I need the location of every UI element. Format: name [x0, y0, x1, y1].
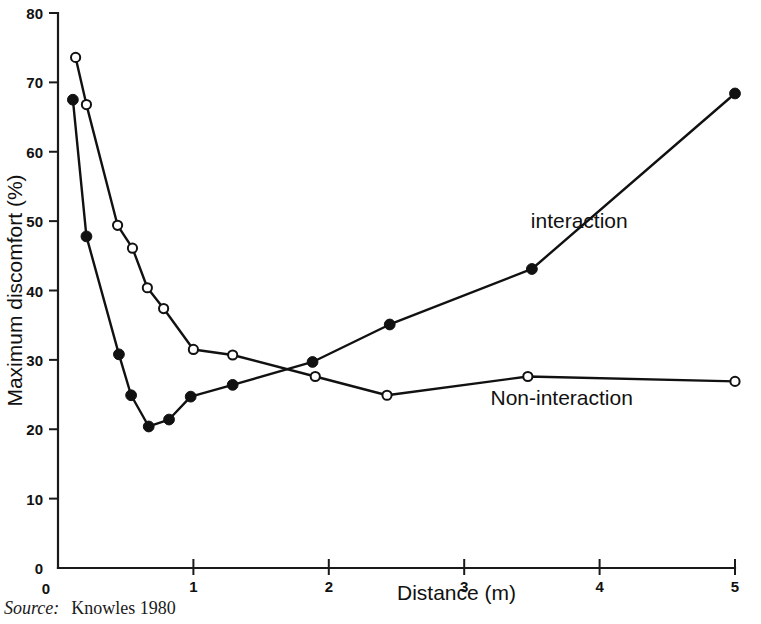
- y-tick-label: 70: [26, 74, 43, 91]
- x-tick-label: 4: [595, 578, 604, 595]
- chart-labels: Distance (m)Maximum discomfort (%)intera…: [3, 174, 633, 604]
- data-point-non-interaction-2: [113, 221, 122, 230]
- data-point-interaction-1: [81, 231, 92, 242]
- data-point-non-interaction-0: [71, 53, 80, 62]
- y-tick-label: 20: [26, 421, 43, 438]
- y-tick-label: 0: [35, 560, 43, 577]
- data-point-interaction-5: [164, 414, 175, 425]
- chart-series: [67, 53, 740, 432]
- data-point-interaction-4: [143, 421, 154, 432]
- source-reference-label: Knowles 1980: [71, 598, 176, 618]
- series-line-interaction: [73, 93, 735, 426]
- data-point-interaction-10: [527, 264, 538, 275]
- data-point-non-interaction-1: [82, 100, 91, 109]
- data-point-non-interaction-10: [523, 372, 532, 381]
- data-point-interaction-3: [126, 390, 137, 401]
- series-annotation-0: interaction: [531, 209, 628, 232]
- y-tick-label: 50: [26, 213, 43, 230]
- data-point-interaction-11: [730, 88, 741, 99]
- data-point-non-interaction-9: [382, 391, 391, 400]
- data-point-non-interaction-3: [128, 244, 137, 253]
- data-point-interaction-9: [384, 319, 395, 330]
- data-point-non-interaction-8: [311, 372, 320, 381]
- source-caption: Source:Knowles 1980: [4, 598, 176, 619]
- data-point-non-interaction-4: [143, 283, 152, 292]
- data-point-non-interaction-5: [159, 304, 168, 313]
- chart-axes: 01020304050607080012345: [26, 5, 739, 597]
- source-prefix-label: Source:: [4, 598, 59, 618]
- y-tick-label: 60: [26, 144, 43, 161]
- y-tick-label: 40: [26, 283, 43, 300]
- y-axis-title: Maximum discomfort (%): [3, 174, 26, 406]
- data-point-non-interaction-11: [730, 377, 739, 386]
- data-point-interaction-2: [114, 349, 125, 360]
- x-axis-title: Distance (m): [397, 581, 516, 604]
- chart-figure: 01020304050607080012345 Distance (m)Maxi…: [0, 0, 761, 624]
- x-tick-label: 1: [189, 578, 197, 595]
- y-tick-label: 80: [26, 5, 43, 22]
- line-chart-canvas: 01020304050607080012345 Distance (m)Maxi…: [0, 0, 761, 624]
- data-point-interaction-0: [67, 94, 78, 105]
- data-point-interaction-7: [227, 379, 238, 390]
- data-point-interaction-8: [307, 357, 318, 368]
- data-point-non-interaction-7: [228, 350, 237, 359]
- x-tick-label: 0: [42, 580, 50, 597]
- y-tick-label: 30: [26, 352, 43, 369]
- data-point-non-interaction-6: [189, 345, 198, 354]
- series-annotation-1: Non-interaction: [490, 386, 632, 409]
- data-point-interaction-6: [185, 391, 196, 402]
- x-tick-label: 5: [731, 578, 739, 595]
- y-tick-label: 10: [26, 491, 43, 508]
- x-tick-label: 2: [325, 578, 333, 595]
- series-line-non-interaction: [76, 57, 735, 395]
